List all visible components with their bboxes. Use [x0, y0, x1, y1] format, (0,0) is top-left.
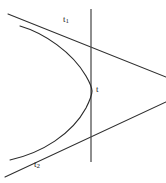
label-axis-t: t	[96, 85, 99, 94]
tangent-line-t1	[8, 14, 166, 77]
label-t1-subscript: 1	[66, 17, 70, 25]
label-t2-subscript: 2	[37, 162, 41, 170]
geometry-figure: t1 t t2	[0, 0, 166, 183]
label-tangent-t2: t2	[34, 160, 40, 169]
parabola-curve	[10, 26, 92, 160]
tangent-line-t2	[5, 102, 166, 177]
figure-canvas	[0, 0, 166, 183]
label-t-base: t	[96, 84, 99, 94]
label-tangent-t1: t1	[63, 15, 69, 24]
